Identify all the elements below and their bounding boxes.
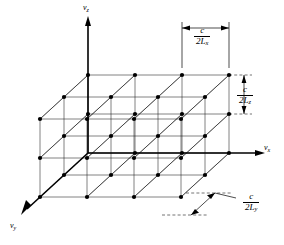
axis-label-nu-z: νz [83, 4, 89, 13]
axis-label-nu-x: νx [264, 144, 270, 153]
dimension-label-spacing-x-denominator: 2Lx [194, 37, 210, 47]
dimension-label-spacing-y-denominator: 2Ly [243, 203, 259, 213]
dimension-label-spacing-x: c 2Lx [194, 26, 210, 47]
dimension-label-spacing-z: c 2Lz [237, 85, 253, 106]
axis-nu-y [21, 153, 88, 215]
kspace-mode-lattice-figure: νz νx νy c 2Lx c 2Lz c 2Ly [0, 0, 284, 245]
axis-nu-x [88, 150, 265, 156]
dimension-label-spacing-y: c 2Ly [243, 192, 259, 213]
axis-nu-z [85, 16, 91, 153]
lattice-diagram-canvas [0, 0, 284, 245]
axis-label-nu-y: νy [10, 222, 16, 231]
dimension-label-spacing-z-denominator: 2Lz [237, 96, 253, 106]
dimension-spacing-y [162, 193, 236, 215]
